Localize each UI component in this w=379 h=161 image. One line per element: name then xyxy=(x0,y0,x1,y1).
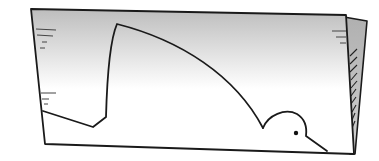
sketch-illustration: Hand-drawn sketch of a sheet of paper wi… xyxy=(0,0,379,161)
drawing xyxy=(0,0,379,161)
eye-icon xyxy=(294,131,298,135)
